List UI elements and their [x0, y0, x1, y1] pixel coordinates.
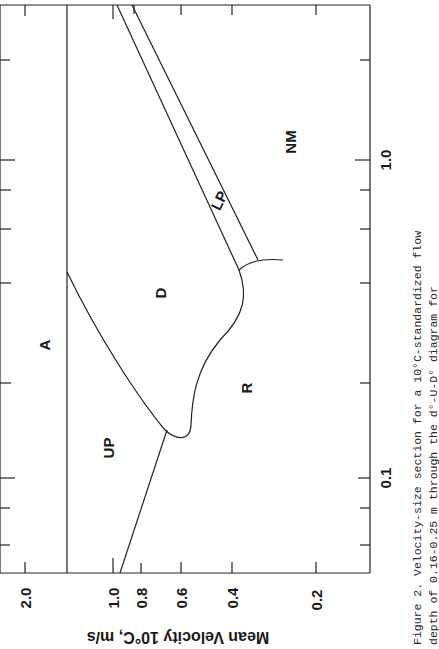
velocity-ticks: [25, 5, 316, 573]
region-label-nm: NM: [282, 130, 299, 153]
region-label-d: D: [152, 287, 169, 298]
size-tick-labels: 1.0 0.1: [377, 150, 394, 489]
lp-lower-boundary: [117, 5, 239, 270]
velocity-axis-title: Mean Velocity 10°C, m/s: [87, 629, 270, 646]
tick-label: 0.6: [173, 588, 190, 609]
lp-end-boundary: [239, 259, 283, 270]
size-ticks: [0, 60, 370, 545]
tick-label: 0.2: [308, 590, 325, 611]
caption-line-1: Figure 2. Velocity-size section for a 10…: [411, 231, 424, 645]
region-label-r: R: [238, 382, 255, 393]
tick-label: 0.4: [224, 587, 241, 609]
tick-label: 1.0: [377, 150, 394, 171]
phase-diagram: A UP D R LP NM 2.0 1.0 0.8 0.6 0.4 0.2 M…: [0, 0, 439, 649]
tick-label: 2.0: [17, 588, 34, 609]
region-label-a: A: [36, 339, 53, 350]
tick-label: 0.1: [377, 468, 394, 489]
region-label-up: UP: [100, 438, 117, 459]
velocity-tick-labels: 2.0 1.0 0.8 0.6 0.4 0.2: [17, 587, 325, 611]
plot-frame: [0, 5, 370, 573]
up-r-boundary: [120, 430, 167, 573]
lp-upper-boundary: [132, 5, 258, 260]
figure-caption: Figure 2. Velocity-size section for a 10…: [411, 231, 439, 645]
region-boundaries: [67, 5, 283, 573]
caption-line-2: depth of 0.16-0.25 m through the d°-U-D°…: [427, 286, 439, 645]
tick-label: 0.8: [133, 588, 150, 609]
tick-label: 1.0: [105, 588, 122, 609]
